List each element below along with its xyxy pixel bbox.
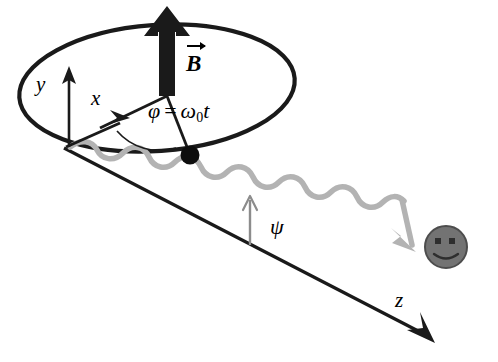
phi-angle-equation: φ=ω0t: [148, 100, 209, 125]
magnetic-field-label: B: [186, 52, 201, 75]
diagram-canvas: [0, 0, 498, 362]
rotating-particle-dot: [181, 146, 200, 165]
smiley-left-eye-icon: [435, 238, 441, 244]
omega-symbol: ω: [181, 98, 197, 123]
b-field-letter: B: [186, 51, 201, 76]
smiley-right-eye-icon: [449, 238, 455, 244]
y-axis-label: y: [36, 74, 45, 95]
equals-sign: =: [160, 98, 180, 123]
b-field-vector-symbol: B: [186, 52, 201, 75]
x-axis-label: x: [91, 88, 100, 109]
psi-angle-label: ψ: [270, 216, 284, 238]
vector-arrow-icon: [187, 45, 205, 47]
physics-diagram-figure: y x z ψ B φ=ω0t: [0, 0, 498, 362]
magnetic-field-arrow-shaft: [159, 30, 175, 96]
z-axis-line: [64, 148, 424, 334]
phi-symbol: φ: [148, 98, 160, 123]
rotation-plane-ellipse: [15, 16, 299, 161]
photon-wave-arrow-tail: [402, 200, 412, 245]
observer-smiley-face: [425, 226, 467, 268]
time-symbol: t: [203, 98, 209, 123]
magnetic-field-arrowhead: [144, 6, 190, 36]
z-axis-label: z: [395, 290, 403, 311]
